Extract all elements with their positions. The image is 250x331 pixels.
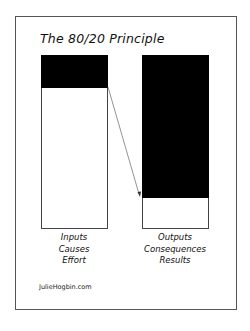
label-causes: Causes [24,244,124,256]
label-consequences: Consequences [125,244,225,256]
credit-text: JulieHogbin.com [39,283,92,291]
outputs-labels: Outputs Consequences Results [125,232,225,267]
label-effort: Effort [24,255,124,267]
label-inputs: Inputs [24,232,124,244]
label-outputs: Outputs [125,232,225,244]
label-results: Results [125,255,225,267]
inputs-labels: Inputs Causes Effort [24,232,124,267]
arrow-icon [0,0,250,331]
